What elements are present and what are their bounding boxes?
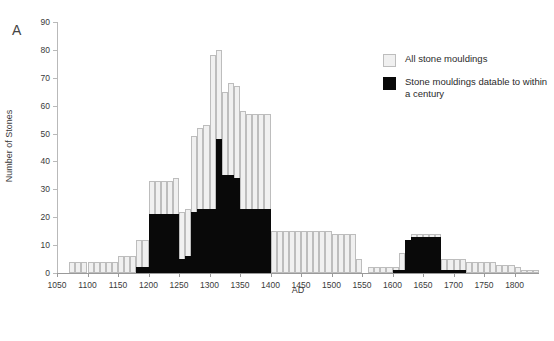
y-axis-tick-label: 90 bbox=[41, 17, 50, 27]
legend-swatch-dated-icon bbox=[383, 77, 396, 90]
y-axis-title: Number of Stones bbox=[4, 110, 14, 183]
y-axis-tick bbox=[53, 78, 57, 79]
y-axis-tick-label: 10 bbox=[41, 240, 50, 250]
x-axis-tick bbox=[454, 273, 455, 277]
x-axis-tick bbox=[271, 273, 272, 277]
x-axis-tick-label: 1300 bbox=[200, 280, 219, 290]
y-axis-tick bbox=[53, 50, 57, 51]
x-axis-tick bbox=[515, 273, 516, 277]
y-axis-tick bbox=[53, 22, 57, 23]
x-axis-tick bbox=[149, 273, 150, 277]
y-axis-tick bbox=[53, 106, 57, 107]
x-axis-tick bbox=[332, 273, 333, 277]
y-axis-tick bbox=[53, 189, 57, 190]
y-axis-tick-label: 20 bbox=[41, 212, 50, 222]
y-axis-tick-label: 50 bbox=[41, 129, 50, 139]
x-axis-tick bbox=[240, 273, 241, 277]
x-axis-line bbox=[57, 273, 539, 274]
x-axis-tick-label: 1650 bbox=[414, 280, 433, 290]
legend-item-all-stone-mouldings: All stone mouldings bbox=[383, 53, 548, 67]
legend-swatch-all-icon bbox=[383, 54, 396, 67]
x-axis-tick-label: 1150 bbox=[109, 280, 127, 290]
x-axis-tick-label: 1100 bbox=[78, 280, 96, 290]
x-axis-tick-label: 1250 bbox=[170, 280, 189, 290]
chart-legend: All stone mouldings Stone mouldings data… bbox=[383, 53, 548, 108]
x-axis-tick bbox=[362, 273, 363, 277]
x-axis-tick bbox=[423, 273, 424, 277]
x-axis-tick bbox=[179, 273, 180, 277]
y-axis-tick-label: 30 bbox=[41, 184, 50, 194]
x-axis-tick bbox=[118, 273, 119, 277]
y-axis-tick bbox=[53, 245, 57, 246]
bar-total bbox=[533, 270, 539, 273]
legend-label-dated: Stone mouldings datable to within a cent… bbox=[405, 76, 548, 99]
y-axis-tick-label: 60 bbox=[41, 101, 50, 111]
x-axis-tick-label: 1750 bbox=[475, 280, 494, 290]
y-axis-tick bbox=[53, 134, 57, 135]
x-axis-tick bbox=[210, 273, 211, 277]
legend-item-stone-mouldings-datable: Stone mouldings datable to within a cent… bbox=[383, 76, 548, 99]
x-axis-tick-label: 1400 bbox=[261, 280, 280, 290]
chart-figure: A 0102030405060708090 105011001150120012… bbox=[0, 0, 554, 341]
y-axis-tick bbox=[53, 161, 57, 162]
x-axis-tick-label: 1500 bbox=[322, 280, 341, 290]
y-axis-tick-label: 40 bbox=[41, 156, 50, 166]
x-axis-title: AD bbox=[292, 285, 305, 295]
y-axis-tick-label: 80 bbox=[41, 45, 50, 55]
y-axis-tick-label: 0 bbox=[45, 268, 50, 278]
x-axis-tick bbox=[484, 273, 485, 277]
y-axis-tick-label: 70 bbox=[41, 73, 50, 83]
panel-label: A bbox=[12, 22, 21, 38]
bar-total bbox=[356, 259, 362, 273]
x-axis-tick-label: 1350 bbox=[231, 280, 250, 290]
y-axis-line bbox=[57, 22, 58, 273]
x-axis-tick-label: 1800 bbox=[505, 280, 524, 290]
x-axis-tick bbox=[88, 273, 89, 277]
x-axis-tick-label: 1700 bbox=[444, 280, 463, 290]
y-axis-tick bbox=[53, 217, 57, 218]
x-axis-tick bbox=[393, 273, 394, 277]
x-axis-tick bbox=[301, 273, 302, 277]
legend-label-all: All stone mouldings bbox=[405, 53, 487, 65]
x-axis-tick-label: 1600 bbox=[383, 280, 402, 290]
x-axis-tick-label: 1200 bbox=[139, 280, 158, 290]
x-axis-tick-label: 1050 bbox=[48, 280, 67, 290]
x-axis-tick bbox=[57, 273, 58, 277]
x-axis-tick-label: 1550 bbox=[353, 280, 372, 290]
